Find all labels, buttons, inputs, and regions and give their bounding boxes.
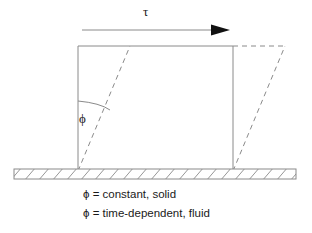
angle-symbol: ϕ — [79, 111, 86, 127]
sheared-left-edge — [78, 46, 130, 171]
shear-stress-symbol: τ — [143, 4, 148, 20]
caption-solid: ϕ = constant, solid — [83, 188, 176, 200]
sheared-right-edge — [233, 46, 285, 171]
shear-stress-arrow — [82, 25, 230, 36]
right-arrow-icon — [211, 25, 230, 36]
sheared-block-outline — [78, 46, 285, 171]
caption-fluid: ϕ = time-dependent, fluid — [83, 207, 210, 219]
angle-arc-icon — [78, 101, 110, 110]
hatched-ground-icon — [10, 167, 302, 181]
shear-deformation-figure: τ ϕ ϕ = constant, solid ϕ = time-depende… — [0, 0, 312, 233]
solid-block-outline — [78, 46, 233, 171]
